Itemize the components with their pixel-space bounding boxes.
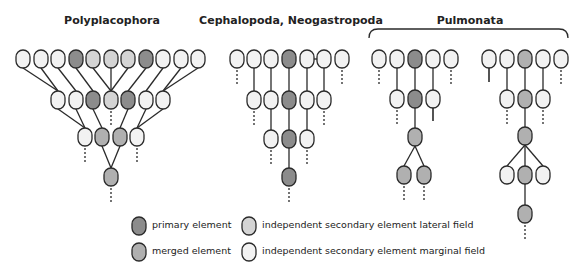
pulmonata-right-node-marginal bbox=[536, 90, 550, 108]
polyplacophora-node-primary bbox=[139, 50, 153, 68]
polyplacophora-node-marginal bbox=[139, 91, 153, 109]
pulmonata-right-node-merged bbox=[518, 166, 532, 184]
polyplacophora-node-marginal bbox=[34, 50, 48, 68]
pulmonata-right-node-merged bbox=[518, 50, 532, 68]
polyplacophora-node-marginal bbox=[16, 50, 30, 68]
legend-label-merged: merged element bbox=[152, 245, 231, 256]
edge bbox=[120, 109, 128, 128]
polyplacophora-node-marginal bbox=[69, 91, 83, 109]
edge bbox=[525, 145, 543, 166]
cephalopoda-node-marginal bbox=[264, 130, 278, 148]
pulmonata-left-node-marginal bbox=[426, 50, 440, 68]
edge bbox=[23, 68, 58, 91]
cephalopoda-node-marginal bbox=[317, 50, 331, 68]
polyplacophora-node-primary bbox=[86, 91, 100, 109]
pulmonata-left-node-marginal bbox=[444, 50, 458, 68]
edge bbox=[163, 68, 198, 91]
legend-label-marginal: independent secondary element marginal f… bbox=[262, 245, 485, 256]
cephalopoda-node-marginal bbox=[230, 50, 244, 68]
pulmonata-right-node-marginal bbox=[536, 166, 550, 184]
pulmonata-left-node-marginal bbox=[372, 50, 386, 68]
pulmonata-right-node-merged bbox=[518, 205, 532, 223]
pulmonata-right-node-marginal bbox=[554, 50, 568, 68]
polyplacophora-node-marginal bbox=[156, 50, 170, 68]
diagram: Polyplacophora Cephalopoda, Neogastropod… bbox=[0, 0, 584, 273]
edge bbox=[76, 68, 93, 91]
cephalopoda-node-marginal bbox=[264, 91, 278, 109]
cephalopoda-node-primary bbox=[282, 168, 296, 186]
pulmonata-left-node-marginal bbox=[390, 90, 404, 108]
edge bbox=[111, 146, 120, 168]
edge bbox=[507, 145, 525, 166]
edge bbox=[41, 68, 58, 91]
legend-swatch-primary bbox=[132, 217, 146, 235]
pulmonata-right-node-merged bbox=[518, 127, 532, 145]
polyplacophora-node-marginal bbox=[174, 50, 188, 68]
edge bbox=[93, 68, 111, 91]
cephalopoda-node-marginal bbox=[300, 91, 314, 109]
cephalopoda-node-marginal bbox=[335, 50, 349, 68]
polyplacophora-node-marginal bbox=[51, 50, 65, 68]
polyplacophora-node-merged bbox=[95, 128, 109, 146]
pulmonata-right-node-marginal bbox=[536, 50, 550, 68]
polyplacophora-node-lateral bbox=[86, 50, 100, 68]
edge bbox=[163, 68, 181, 91]
pulmonata-left-node-marginal bbox=[426, 90, 440, 108]
polyplacophora-node-marginal bbox=[191, 50, 205, 68]
pulmonata-right-node-merged bbox=[518, 90, 532, 108]
polyplacophora-node-marginal bbox=[78, 128, 92, 146]
tree-canvas bbox=[0, 0, 584, 273]
pulmonata-left-node-primary bbox=[408, 90, 422, 108]
pulmonata-left-node-marginal bbox=[390, 50, 404, 68]
polyplacophora-node-primary bbox=[69, 50, 83, 68]
cephalopoda-node-marginal bbox=[247, 91, 261, 109]
edge bbox=[404, 146, 415, 166]
polyplacophora-node-marginal bbox=[156, 91, 170, 109]
cephalopoda-node-primary bbox=[282, 50, 296, 68]
polyplacophora-node-primary bbox=[121, 91, 135, 109]
pulmonata-left-node-primary bbox=[408, 50, 422, 68]
pulmonata-left-node-merged bbox=[408, 128, 422, 146]
edge bbox=[58, 68, 76, 91]
polyplacophora-node-lateral bbox=[121, 50, 135, 68]
legend-label-primary: primary element bbox=[152, 219, 231, 230]
edge bbox=[93, 109, 102, 128]
edge bbox=[128, 68, 146, 91]
edge bbox=[102, 146, 111, 168]
polyplacophora-node-lateral bbox=[104, 91, 118, 109]
polyplacophora-node-lateral bbox=[104, 50, 118, 68]
pulmonata-left-node-merged bbox=[417, 166, 431, 184]
cephalopoda-node-primary bbox=[282, 130, 296, 148]
pulmonata-right-node-marginal bbox=[482, 50, 496, 68]
cephalopoda-node-marginal bbox=[300, 130, 314, 148]
cephalopoda-node-marginal bbox=[300, 50, 314, 68]
edge bbox=[146, 68, 163, 91]
legend-swatch-marginal bbox=[242, 243, 256, 261]
cephalopoda-node-primary bbox=[282, 91, 296, 109]
legend-swatch-merged bbox=[132, 243, 146, 261]
pulmonata-right-node-marginal bbox=[500, 50, 514, 68]
pulmonata-right-node-marginal bbox=[500, 166, 514, 184]
polyplacophora-node-merged bbox=[113, 128, 127, 146]
polyplacophora-node-marginal bbox=[130, 128, 144, 146]
polyplacophora-node-merged bbox=[104, 168, 118, 186]
cephalopoda-node-marginal bbox=[247, 50, 261, 68]
legend-swatch-lateral bbox=[242, 217, 256, 235]
pulmonata-right-node-marginal bbox=[500, 90, 514, 108]
cephalopoda-node-marginal bbox=[317, 91, 331, 109]
edges bbox=[23, 59, 561, 239]
pulmonata-left-node-merged bbox=[397, 166, 411, 184]
cephalopoda-node-marginal bbox=[264, 50, 278, 68]
edge bbox=[111, 68, 128, 91]
edge bbox=[415, 146, 424, 166]
legend-label-lateral: independent secondary element lateral fi… bbox=[262, 219, 473, 230]
polyplacophora-node-marginal bbox=[51, 91, 65, 109]
pulmonata-bracket bbox=[369, 29, 568, 38]
